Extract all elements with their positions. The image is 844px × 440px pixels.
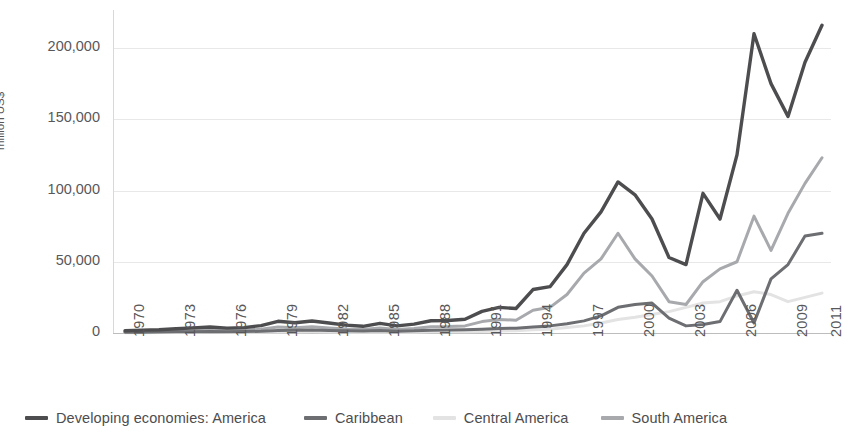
x-tick-label: 1991	[488, 304, 504, 337]
x-tick-label: 1997	[590, 304, 606, 337]
x-tick-label: 1988	[437, 304, 453, 337]
legend-item-south-america[interactable]: South America	[601, 410, 728, 426]
x-tick-label: 1970	[131, 304, 147, 337]
legend-label: Caribbean	[335, 410, 403, 426]
x-tick-label: 1982	[335, 304, 351, 337]
legend-swatch-icon	[433, 416, 456, 420]
legend-item-central-america[interactable]: Central America	[433, 410, 569, 426]
x-tick-label: 1985	[386, 304, 402, 337]
x-tick-label: 1976	[233, 304, 249, 337]
legend-label: Central America	[464, 410, 569, 426]
series-line-caribbean	[125, 233, 822, 332]
legend-label: Developing economies: America	[56, 410, 266, 426]
legend-swatch-icon	[601, 416, 624, 420]
legend-swatch-icon	[304, 416, 327, 420]
series-line-south-america	[125, 158, 822, 332]
series-line-developing-economies-america	[125, 25, 822, 331]
x-axis-tick-labels: 1970197319761979198219851988199119941997…	[0, 333, 839, 395]
legend-item-caribbean[interactable]: Caribbean	[304, 410, 403, 426]
legend-swatch-icon	[25, 416, 48, 420]
legend-item-developing-economies-america[interactable]: Developing economies: America	[25, 410, 266, 426]
x-tick-label: 2006	[743, 304, 759, 337]
chart-legend: Developing economies: AmericaCaribbeanCe…	[0, 404, 839, 432]
legend-label: South America	[632, 410, 728, 426]
x-tick-label: 2009	[794, 304, 810, 337]
x-tick-label: 2003	[692, 304, 708, 337]
x-tick-label: 1973	[182, 304, 198, 337]
x-tick-label: 2000	[641, 304, 657, 337]
x-tick-label: 1994	[539, 304, 555, 337]
x-tick-label: 2011	[828, 305, 844, 337]
x-tick-label: 1979	[284, 304, 300, 337]
